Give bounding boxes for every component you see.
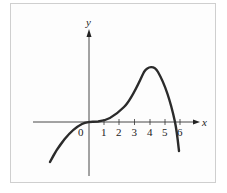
figure-frame: [11, 4, 216, 183]
function-graph: x y 0 1 2 3 4 5 6: [0, 0, 227, 193]
x-tick-label-1: 1: [101, 126, 107, 138]
x-axis-label: x: [201, 116, 207, 128]
x-tick-label-4: 4: [147, 126, 153, 138]
x-tick-label-0: 0: [78, 126, 84, 138]
x-tick-label-2: 2: [116, 126, 122, 138]
y-axis-label: y: [85, 16, 91, 28]
x-tick-label-3: 3: [132, 126, 138, 138]
x-tick-label-5: 5: [162, 126, 168, 138]
